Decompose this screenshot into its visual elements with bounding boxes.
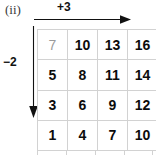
grid-cell: 5 [38, 60, 68, 90]
grid-cell: 16 [128, 30, 157, 60]
number-grid-figure: (ii) +3 −2 7 10 13 16 5 8 11 14 [0, 0, 156, 155]
grid-cell: 6 [68, 90, 98, 120]
grid-cell: 12 [128, 90, 157, 120]
grid-cell: 7 [98, 120, 128, 150]
table-row: 7 10 13 16 [38, 30, 157, 60]
grid-cell: 1 [38, 120, 68, 150]
number-grid: 7 10 13 16 5 8 11 14 3 6 9 12 [37, 29, 153, 151]
arrow-right-icon [34, 12, 134, 28]
vertical-step-label: −2 [3, 56, 17, 68]
grid-underhang-lines [37, 151, 153, 155]
grid-cell: 10 [128, 120, 157, 150]
grid-cell: 9 [98, 90, 128, 120]
grid-cell: 11 [98, 60, 128, 90]
grid-cell: 4 [68, 120, 98, 150]
figure-label: (ii) [5, 3, 21, 16]
grid-cell: 3 [38, 90, 68, 120]
grid-cell: 7 [38, 30, 68, 60]
number-grid-table: 7 10 13 16 5 8 11 14 3 6 9 12 [37, 29, 156, 151]
grid-cell: 13 [98, 30, 128, 60]
grid-cell: 8 [68, 60, 98, 90]
table-row: 3 6 9 12 [38, 90, 157, 120]
grid-cell: 10 [68, 30, 98, 60]
table-row: 1 4 7 10 [38, 120, 157, 150]
grid-cell: 14 [128, 60, 157, 90]
table-row: 5 8 11 14 [38, 60, 157, 90]
